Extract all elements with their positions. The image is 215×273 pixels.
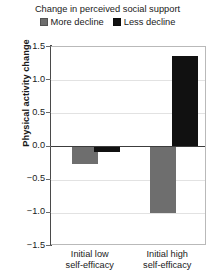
y-tick-mark	[46, 146, 51, 147]
gridline	[51, 180, 205, 181]
legend-swatch-less-decline	[113, 18, 121, 26]
y-tick-mark	[46, 179, 51, 180]
y-tick-label: −1.5	[12, 241, 45, 250]
y-tick-mark	[46, 112, 51, 113]
x-axis-label-line: Initial high	[129, 249, 207, 260]
y-tick-mark	[46, 46, 51, 47]
legend-label-less-decline: Less decline	[124, 17, 176, 27]
legend-item-more-decline: More decline	[40, 17, 104, 27]
x-axis-label-line: Initial low	[51, 249, 129, 260]
chart-legend: More decline Less decline	[0, 17, 215, 27]
bar-less-decline-group-2	[172, 56, 198, 147]
legend-swatch-more-decline	[40, 18, 48, 26]
gridline	[51, 213, 205, 214]
plot-area	[51, 46, 206, 245]
bar-less-decline-group-1	[94, 147, 120, 153]
y-tick-mark	[46, 79, 51, 80]
y-tick-mark	[46, 245, 51, 246]
y-tick-label: 0.0	[12, 141, 45, 150]
x-axis-label-group-1: Initial lowself-efficacy	[51, 249, 129, 271]
y-tick-label: −1.0	[12, 207, 45, 216]
x-axis-label-line: self-efficacy	[129, 260, 207, 271]
y-tick-label: 1.5	[12, 42, 45, 51]
x-axis-label-group-2: Initial highself-efficacy	[129, 249, 207, 271]
chart-title: Change in perceived social support	[0, 4, 215, 15]
y-tick-mark	[46, 212, 51, 213]
legend-item-less-decline: Less decline	[113, 17, 176, 27]
legend-label-more-decline: More decline	[51, 17, 104, 27]
y-tick-label: 1.0	[12, 75, 45, 84]
bar-more-decline-group-2	[150, 147, 176, 213]
x-axis-label-line: self-efficacy	[51, 260, 129, 271]
y-tick-label: −0.5	[12, 174, 45, 183]
y-tick-label: 0.5	[12, 108, 45, 117]
chart-container: Change in perceived social support More …	[0, 0, 215, 273]
